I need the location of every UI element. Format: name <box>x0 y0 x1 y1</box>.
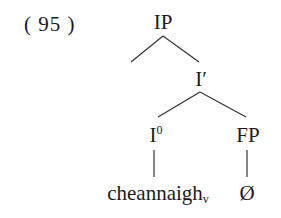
node-i0-label: I <box>150 123 157 147</box>
node-i0: I0 <box>150 124 163 146</box>
node-ibar-label: I′ <box>195 67 207 91</box>
branch-ip-left <box>131 36 163 62</box>
node-fp: FP <box>236 124 259 146</box>
node-ip: IP <box>154 11 173 33</box>
leaf-verb-subscript: v <box>203 192 209 206</box>
branch-ibar-fp <box>200 92 246 117</box>
node-ip-label: IP <box>154 10 173 34</box>
branch-ip-ibar <box>163 36 199 62</box>
node-fp-label: FP <box>236 123 259 147</box>
branch-ibar-i0 <box>158 92 200 117</box>
node-ibar: I′ <box>195 68 207 90</box>
node-i0-superscript: 0 <box>157 123 163 137</box>
leaf-verb: cheannaighv <box>107 182 209 204</box>
leaf-empty: Ø <box>239 182 254 204</box>
leaf-empty-label: Ø <box>239 181 254 205</box>
leaf-verb-label: cheannaigh <box>107 181 203 205</box>
